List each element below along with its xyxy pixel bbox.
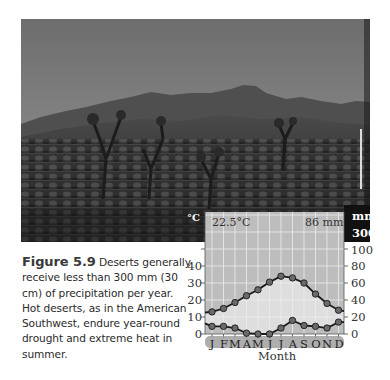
right-tick-80: 80: [351, 259, 366, 273]
left-unit-label: °C: [187, 212, 200, 223]
between-curves-area: [205, 276, 344, 334]
month-sep: S: [298, 337, 310, 351]
right-tick-60: 60: [351, 276, 366, 290]
figure-caption: Figure 5.9 Deserts generally receive les…: [22, 254, 194, 362]
figure-label: Figure 5.9: [22, 254, 96, 269]
month-nov: N: [321, 337, 333, 351]
mean-temperature-label: 22.5°C: [212, 216, 250, 229]
temperature-points: [209, 273, 342, 315]
desert-landscape-image: [21, 19, 370, 242]
caption-text: Deserts generally receive less than 300 …: [22, 256, 191, 360]
right-tick-0: 0: [351, 327, 358, 341]
month-jan: J: [206, 337, 218, 351]
annual-precipitation-label: 86 mm: [305, 216, 343, 229]
right-tick-100: 100: [351, 243, 373, 257]
month-mar: M: [229, 337, 241, 351]
precipitation-points: [209, 317, 342, 337]
precipitation-line: [205, 320, 344, 334]
right-tick-20: 20: [351, 310, 366, 324]
right-unit-label: mm: [352, 209, 376, 223]
desert-photo: [21, 19, 370, 242]
temperature-line: [205, 276, 344, 312]
x-axis-title: Month: [258, 349, 296, 363]
month-dec: D: [333, 337, 345, 351]
right-tick-300: 300: [352, 226, 376, 240]
right-tick-40: 40: [351, 293, 366, 307]
